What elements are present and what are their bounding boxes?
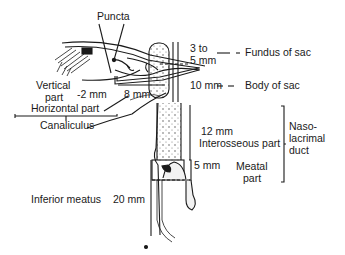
nasolacrimal-label-line3: duct <box>289 145 309 156</box>
canaliculus-label: Canaliculus <box>40 120 94 131</box>
puncta-leader-upper <box>114 24 124 60</box>
body-of-sac-label: Body of sac <box>245 80 300 91</box>
inferior-meatus-label: Inferior meatus <box>31 194 101 205</box>
lacrimal-sac <box>149 43 169 98</box>
puncta-leader-lower <box>99 24 111 73</box>
meatal-size-label: 5 mm <box>194 160 220 171</box>
meatal-part-line1: Meatal <box>236 161 268 172</box>
fundus-size-line2: 5 mm <box>190 55 216 66</box>
nasolacrimal-label-line1: Naso- <box>289 121 317 132</box>
vertical-length-label: -2 mm <box>77 89 107 100</box>
nasolacrimal-label-line2: lacrimal <box>289 133 325 144</box>
horizontal-part-label: Horizontal part <box>31 103 99 114</box>
inferior-meatus-size-label: 20 mm <box>113 194 145 205</box>
body-size-label: 10 mm <box>190 80 222 91</box>
interosseous-size-label: 12 mm <box>201 126 233 137</box>
fundus-of-sac-label: Fundus of sac <box>245 47 311 58</box>
horizontal-length-label: 8 mm <box>124 89 150 100</box>
interosseous-part-label: Interosseous part <box>199 138 280 149</box>
vertical-part-label-line1: Vertical <box>36 80 70 91</box>
puncta-label: Puncta <box>97 11 130 22</box>
meatal-part-line2: part <box>243 173 261 184</box>
fundus-size-line1: 3 to <box>190 43 208 54</box>
lacrimal-system-diagram: Puncta Vertical part -2 mm 8 mm Horizont… <box>0 0 345 255</box>
eyelid-drawing <box>55 42 205 84</box>
